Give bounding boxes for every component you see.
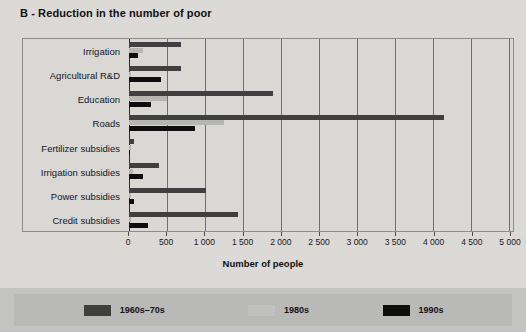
bar-group: Fertilizer subsidies [23, 136, 513, 160]
bar-series3 [129, 77, 161, 82]
category-label: Fertilizer subsidies [41, 136, 125, 160]
x-tick-mark [319, 232, 320, 236]
bar-series3 [129, 150, 130, 155]
bar-group: Education [23, 88, 513, 112]
legend-swatch-icon [383, 305, 410, 316]
bar-series1 [129, 66, 181, 71]
category-label: Irrigation subsidies [41, 160, 125, 184]
bar-series3 [129, 102, 151, 107]
bar-series2 [129, 120, 224, 125]
bar-series3 [129, 126, 195, 131]
bar-group: Irrigation [23, 39, 513, 63]
bar-series1 [129, 212, 238, 217]
bar-series1 [129, 163, 159, 168]
x-tick-mark [281, 232, 282, 236]
bar-rows: IrrigationAgricultural R&DEducationRoads… [23, 39, 513, 231]
x-tick-mark [434, 232, 435, 236]
bar-set [129, 88, 509, 112]
x-axis: 05001 0001 5002 0002 5003 0003 5004 0004… [22, 232, 514, 254]
bar-series2 [129, 145, 131, 150]
bar-set [129, 39, 509, 63]
bar-set [129, 209, 509, 233]
x-tick-label: 2 000 [270, 237, 291, 247]
legend-item: 1980s [248, 305, 309, 316]
x-tick-mark [166, 232, 167, 236]
bar-set [129, 160, 509, 184]
bar-group: Roads [23, 112, 513, 136]
bar-series2 [129, 72, 131, 77]
plot-frame: IrrigationAgricultural R&DEducationRoads… [22, 38, 514, 232]
bar-series3 [129, 53, 138, 58]
x-tick-label: 1 000 [194, 237, 215, 247]
bar-series3 [129, 199, 134, 204]
category-label: Credit subsidies [52, 209, 125, 233]
x-tick-label: 500 [159, 237, 173, 247]
legend-band: 1960s–70s1980s1990s [0, 288, 526, 332]
category-label: Agricultural R&D [50, 63, 125, 87]
x-tick-mark [395, 232, 396, 236]
bar-series2 [129, 96, 167, 101]
x-tick-label: 4 000 [423, 237, 444, 247]
bar-group: Agricultural R&D [23, 63, 513, 87]
category-label: Power subsidies [51, 185, 125, 209]
legend-swatch-icon [248, 305, 275, 316]
bar-set [129, 185, 509, 209]
x-tick-mark [510, 232, 511, 236]
legend-swatch-icon [84, 305, 111, 316]
category-label: Roads [93, 112, 125, 136]
legend-label: 1960s–70s [120, 305, 165, 315]
bar-group: Credit subsidies [23, 209, 513, 233]
legend: 1960s–70s1980s1990s [14, 294, 512, 326]
x-axis-label: Number of people [0, 258, 526, 269]
bar-series2 [129, 193, 131, 198]
x-tick-label: 3 000 [347, 237, 368, 247]
bar-set [129, 112, 509, 136]
x-tick-mark [128, 232, 129, 236]
bar-set [129, 63, 509, 87]
bar-series2 [129, 217, 131, 222]
bar-group: Irrigation subsidies [23, 160, 513, 184]
bar-series2 [129, 48, 143, 53]
legend-item: 1960s–70s [84, 305, 165, 316]
x-axis-ticks: 05001 0001 5002 0002 5003 0003 5004 0004… [128, 232, 510, 254]
bar-series1 [129, 42, 181, 47]
x-tick-mark [243, 232, 244, 236]
bar-set [129, 136, 509, 160]
legend-item: 1990s [383, 305, 444, 316]
x-tick-label: 0 [126, 237, 131, 247]
x-tick-label: 3 500 [385, 237, 406, 247]
bar-series1 [129, 188, 206, 193]
category-label: Education [78, 88, 125, 112]
bar-series1 [129, 139, 134, 144]
x-tick-label: 5 000 [499, 237, 520, 247]
x-tick-mark [204, 232, 205, 236]
x-tick-mark [357, 232, 358, 236]
bar-series3 [129, 223, 148, 228]
legend-label: 1990s [419, 305, 444, 315]
x-tick-label: 4 500 [461, 237, 482, 247]
chart-title: B - Reduction in the number of poor [20, 7, 212, 19]
bar-series1 [129, 115, 444, 120]
x-tick-label: 1 500 [232, 237, 253, 247]
figure-panel-b: B - Reduction in the number of poor Irri… [0, 0, 526, 332]
bar-series2 [129, 169, 133, 174]
legend-label: 1980s [284, 305, 309, 315]
x-tick-label: 2 500 [308, 237, 329, 247]
x-tick-mark [472, 232, 473, 236]
bar-series3 [129, 174, 143, 179]
bar-series1 [129, 91, 273, 96]
bar-group: Power subsidies [23, 185, 513, 209]
category-label: Irrigation [83, 39, 125, 63]
